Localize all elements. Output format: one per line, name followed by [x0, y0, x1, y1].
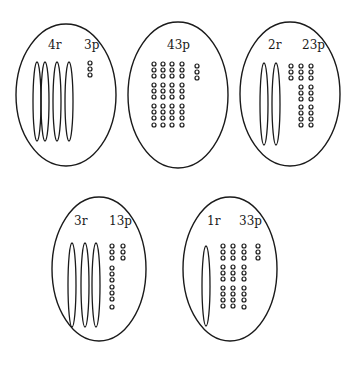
point-dot [110, 291, 114, 295]
point-dot [242, 265, 246, 269]
point-dot [242, 244, 246, 248]
point-dot [152, 110, 156, 114]
point-dot [309, 123, 313, 127]
point-dot [242, 305, 246, 309]
point-dot [121, 256, 125, 260]
point-dot [152, 62, 156, 66]
point-dot [110, 285, 114, 289]
point-dot [152, 104, 156, 108]
point-dot [242, 292, 246, 296]
point-dot [299, 105, 303, 109]
point-dot [242, 256, 246, 260]
point-dot [221, 298, 225, 302]
point-dot [299, 70, 303, 74]
point-dot [231, 271, 235, 275]
point-dot [121, 250, 125, 254]
rod-shape [92, 243, 100, 327]
point-dot [299, 97, 303, 101]
point-dot [195, 64, 199, 68]
rod-shape [41, 62, 49, 141]
cell-0: 4r3p [16, 24, 116, 166]
point-dot [152, 95, 156, 99]
cell-3: 3r13p [52, 197, 146, 341]
point-dot [152, 116, 156, 120]
point-dot [170, 68, 174, 72]
point-dot [161, 95, 165, 99]
point-dot [309, 70, 313, 74]
point-dot [231, 244, 235, 248]
point-dot [180, 110, 184, 114]
point-dot [289, 64, 293, 68]
point-dot [170, 62, 174, 66]
point-dot [221, 304, 225, 308]
point-dot [242, 298, 246, 302]
point-dot [88, 67, 92, 71]
cell-outline [183, 197, 277, 341]
point-dot [88, 73, 92, 77]
point-dot [309, 97, 313, 101]
point-dot [161, 68, 165, 72]
point-dot [170, 74, 174, 78]
point-dot [121, 244, 125, 248]
point-dot [221, 244, 225, 248]
rod-shape [33, 62, 41, 141]
point-dot [110, 256, 114, 260]
cells-diagram: 4r3p43p2r23p3r13p1r33p [0, 0, 355, 372]
point-dot [309, 85, 313, 89]
point-dot [299, 117, 303, 121]
rod-shape [68, 243, 76, 327]
point-dot [170, 89, 174, 93]
point-dot [242, 271, 246, 275]
point-dot [161, 83, 165, 87]
point-dot [221, 271, 225, 275]
point-dot [299, 91, 303, 95]
point-dot [299, 85, 303, 89]
cell-4: 1r33p [183, 197, 277, 341]
point-dot [110, 278, 114, 282]
point-dot [170, 104, 174, 108]
point-dot [231, 277, 235, 281]
point-dot [309, 117, 313, 121]
point-dot [110, 266, 114, 270]
point-dot [110, 305, 114, 309]
cell-label: 43p [167, 38, 190, 52]
point-dot [180, 116, 184, 120]
point-dot [170, 95, 174, 99]
point-dot [161, 62, 165, 66]
point-dot [221, 277, 225, 281]
point-dot [152, 89, 156, 93]
cell-1: 43p [128, 22, 228, 168]
point-dot [180, 68, 184, 72]
rod-shape [65, 62, 73, 141]
point-dot [180, 83, 184, 87]
point-dot [110, 297, 114, 301]
point-dot [180, 95, 184, 99]
point-dot [180, 123, 184, 127]
point-dot [289, 76, 293, 80]
cell-outline [240, 22, 340, 166]
point-dot [110, 250, 114, 254]
point-dot [170, 110, 174, 114]
point-dot [299, 76, 303, 80]
point-dot [221, 292, 225, 296]
cell-label: 2r [268, 38, 282, 52]
point-dot [170, 123, 174, 127]
point-dot [170, 116, 174, 120]
point-dot [161, 116, 165, 120]
point-dot [180, 104, 184, 108]
point-dot [161, 89, 165, 93]
point-dot [231, 286, 235, 290]
point-dot [152, 123, 156, 127]
point-dot [152, 83, 156, 87]
point-dot [110, 272, 114, 276]
cell-label: 3r [74, 214, 88, 228]
point-dot [180, 89, 184, 93]
point-dot [161, 74, 165, 78]
cell-label: 33p [239, 214, 262, 228]
point-dot [309, 91, 313, 95]
rod-shape [202, 246, 210, 326]
cell-2: 2r23p [240, 22, 340, 166]
point-dot [289, 70, 293, 74]
point-dot [299, 64, 303, 68]
point-dot [256, 244, 260, 248]
